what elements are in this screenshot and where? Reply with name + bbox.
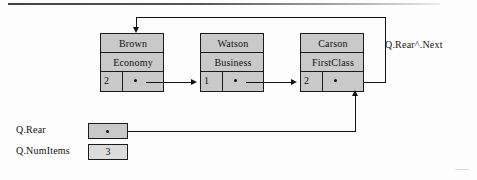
q-numitems-label: Q.NumItems — [16, 145, 70, 156]
arrow-right-icon — [291, 79, 297, 85]
scan-artifact-top — [8, 3, 440, 5]
node-3-name: Carson — [301, 34, 363, 53]
arrow-right-icon — [191, 79, 197, 85]
node-3-count: 2 — [301, 72, 323, 91]
node-1-name: Brown — [101, 34, 163, 53]
queue-node-1: Brown Economy 2 — [100, 33, 164, 92]
pointer-dot-icon — [334, 79, 337, 82]
node-2-class: Business — [201, 53, 263, 72]
pointer-dot-icon — [234, 79, 237, 82]
pointer-dot-icon — [134, 79, 137, 82]
node-3-next-pointer — [323, 72, 363, 91]
node-3-class: FirstClass — [301, 53, 363, 72]
loopback-top-rail — [136, 17, 386, 18]
rear-next-label: Q.Rear^.Next — [385, 39, 443, 50]
node1-to-node2-line — [146, 82, 192, 83]
q-numitems-value: 3 — [89, 145, 127, 159]
queue-node-3: Carson FirstClass 2 — [300, 33, 364, 92]
arrow-up-icon — [352, 90, 358, 96]
q-numitems-value-box: 3 — [88, 144, 128, 160]
q-rear-horizontal-line — [118, 131, 356, 132]
node-2-count: 1 — [201, 72, 223, 91]
node2-to-node3-line — [246, 82, 292, 83]
node-1-class: Economy — [101, 53, 163, 72]
node-3-bottom-row: 2 — [301, 72, 363, 91]
pointer-dot-icon — [106, 130, 109, 133]
q-rear-vertical-line — [355, 96, 356, 131]
queue-node-2: Watson Business 1 — [200, 33, 264, 92]
scan-artifact-bottom — [455, 169, 469, 170]
q-rear-value-box — [88, 123, 128, 139]
node-2-name: Watson — [201, 34, 263, 53]
queue-diagram-figure: Brown Economy 2 Watson Business 1 Carson… — [0, 0, 477, 180]
q-rear-label: Q.Rear — [16, 124, 46, 135]
node-1-count: 2 — [101, 72, 123, 91]
